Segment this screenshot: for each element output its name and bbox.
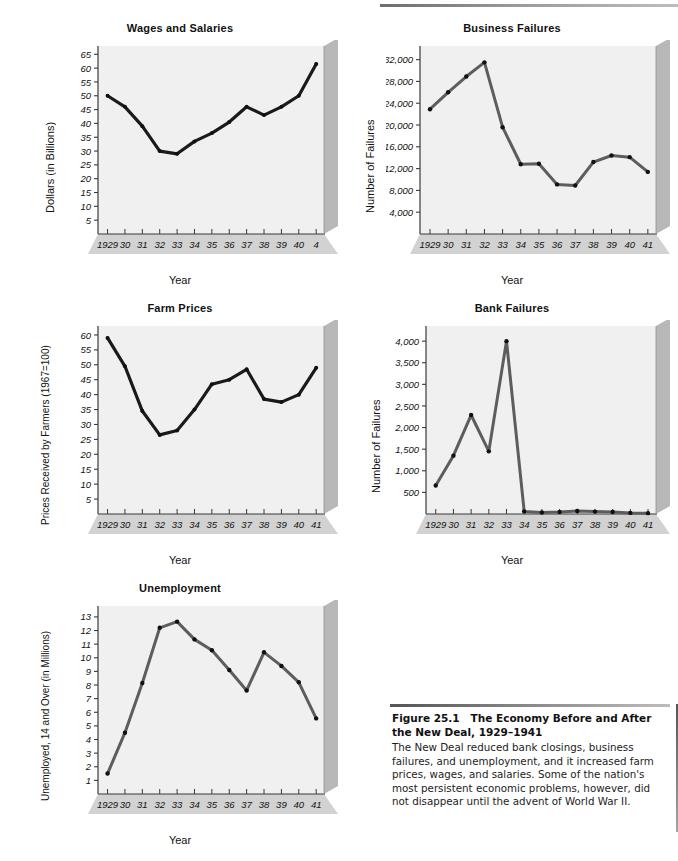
svg-text:10: 10 [80, 479, 91, 490]
svg-text:41: 41 [643, 239, 654, 250]
svg-text:15: 15 [80, 464, 91, 475]
figure-number: Figure 25.1 [392, 712, 460, 724]
svg-text:13: 13 [80, 611, 91, 622]
svg-text:11: 11 [81, 639, 91, 650]
svg-text:8,000: 8,000 [389, 185, 413, 196]
caption-top-rule [390, 704, 670, 707]
svg-text:15: 15 [80, 187, 91, 198]
svg-text:36: 36 [224, 519, 235, 530]
svg-text:5: 5 [86, 720, 92, 731]
svg-text:24,000: 24,000 [386, 98, 414, 109]
svg-text:32,000: 32,000 [386, 54, 414, 65]
svg-text:39: 39 [276, 519, 287, 530]
svg-text:38: 38 [588, 239, 599, 250]
svg-text:65: 65 [80, 49, 91, 60]
chart-svg: 4,0008,00012,00016,00020,00024,00028,000… [386, 40, 672, 270]
chart-x-axis-label: Year [382, 554, 642, 566]
chart-panel-unemployment: Unemployment Unemployed, 14 and Over (in… [20, 582, 340, 852]
svg-text:10: 10 [80, 652, 91, 663]
svg-text:35: 35 [537, 519, 548, 530]
chart-svg: 5001,0001,5002,0002,5003,0003,5004,00019… [392, 320, 672, 550]
svg-text:33: 33 [497, 239, 508, 250]
svg-text:55: 55 [80, 77, 91, 88]
svg-text:36: 36 [552, 239, 563, 250]
chart-y-axis-label: Number of Failures [370, 364, 382, 529]
svg-text:5: 5 [86, 215, 92, 226]
page-top-rule [380, 4, 678, 7]
chart-plot-area: 4,0008,00012,00016,00020,00024,00028,000… [386, 40, 672, 270]
svg-text:50: 50 [80, 90, 91, 101]
svg-text:500: 500 [403, 487, 420, 498]
svg-text:41: 41 [311, 519, 322, 530]
svg-text:33: 33 [172, 799, 183, 810]
svg-text:32: 32 [484, 519, 495, 530]
svg-text:3,500: 3,500 [395, 357, 419, 368]
svg-text:2,500: 2,500 [394, 401, 419, 412]
svg-text:20: 20 [79, 173, 91, 184]
figure-heading: Figure 25.1 The Economy Before and After… [392, 712, 670, 739]
svg-text:45: 45 [80, 374, 91, 385]
svg-text:37: 37 [570, 239, 581, 250]
svg-text:32: 32 [154, 239, 165, 250]
svg-text:34: 34 [519, 519, 530, 530]
svg-text:2: 2 [85, 761, 92, 772]
svg-text:37: 37 [241, 239, 252, 250]
svg-text:3,000: 3,000 [395, 379, 419, 390]
svg-text:4: 4 [86, 734, 91, 745]
svg-text:37: 37 [241, 799, 252, 810]
svg-text:36: 36 [224, 799, 235, 810]
chart-title: Unemployment [20, 582, 340, 594]
chart-panel-business-failures: Business Failures Number of Failures 4,0… [352, 22, 672, 292]
figure-caption-block: Figure 25.1 The Economy Before and After… [392, 712, 670, 809]
svg-text:10: 10 [80, 201, 91, 212]
svg-text:1,500: 1,500 [395, 444, 419, 455]
svg-text:30: 30 [120, 799, 131, 810]
svg-text:35: 35 [207, 519, 218, 530]
chart-y-axis-label: Prices Received by Farmers (1967=100) [40, 328, 51, 543]
svg-text:37: 37 [241, 519, 252, 530]
svg-text:39: 39 [276, 799, 287, 810]
svg-text:36: 36 [554, 519, 565, 530]
chart-plot-area: 5101520253035404550556019293031323334353… [64, 320, 340, 550]
chart-panel-farm-prices: Farm Prices Prices Received by Farmers (… [20, 302, 340, 572]
svg-text:4,000: 4,000 [389, 207, 413, 218]
svg-text:32: 32 [479, 239, 490, 250]
chart-svg: 5101520253035404550556019293031323334353… [64, 320, 340, 550]
svg-text:60: 60 [80, 63, 91, 74]
svg-text:45: 45 [80, 104, 91, 115]
svg-text:38: 38 [259, 239, 270, 250]
svg-text:25: 25 [79, 434, 91, 445]
svg-text:38: 38 [590, 519, 601, 530]
chart-svg: 1234567891011121319293031323334353637383… [64, 600, 340, 830]
svg-text:30: 30 [448, 519, 459, 530]
svg-text:1: 1 [86, 775, 91, 786]
svg-text:12: 12 [80, 625, 91, 636]
svg-text:41: 41 [311, 799, 322, 810]
chart-plot-area: 1234567891011121319293031323334353637383… [64, 600, 340, 830]
svg-text:3: 3 [86, 748, 92, 759]
chart-x-axis-label: Year [50, 554, 310, 566]
svg-text:35: 35 [80, 404, 91, 415]
svg-text:20,000: 20,000 [386, 120, 414, 131]
svg-text:1929: 1929 [419, 239, 441, 250]
chart-x-axis-label: Year [50, 834, 310, 846]
svg-text:41: 41 [643, 519, 654, 530]
chart-svg: 5101520253035404550556065192930313233343… [64, 40, 340, 270]
svg-text:35: 35 [207, 239, 218, 250]
svg-text:31: 31 [461, 239, 472, 250]
svg-text:33: 33 [172, 519, 183, 530]
svg-text:40: 40 [294, 239, 305, 250]
svg-text:35: 35 [80, 132, 91, 143]
chart-title: Wages and Salaries [20, 22, 340, 34]
svg-text:38: 38 [259, 519, 270, 530]
svg-text:40: 40 [80, 118, 91, 129]
svg-text:30: 30 [80, 419, 91, 430]
chart-title: Business Failures [352, 22, 672, 34]
svg-text:40: 40 [80, 389, 91, 400]
svg-text:5: 5 [86, 494, 92, 505]
svg-text:34: 34 [189, 239, 200, 250]
svg-text:1929: 1929 [425, 519, 447, 530]
chart-y-axis-label: Dollars (in Billions) [44, 82, 56, 252]
svg-text:4: 4 [314, 239, 319, 250]
svg-text:7: 7 [86, 693, 92, 704]
